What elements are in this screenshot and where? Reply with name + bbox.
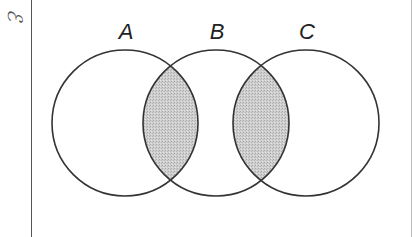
set-a-label: A — [119, 21, 134, 43]
set-b-label: B — [210, 21, 225, 43]
venn-diagram — [0, 0, 412, 237]
set-c-label: C — [299, 21, 315, 43]
